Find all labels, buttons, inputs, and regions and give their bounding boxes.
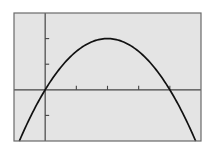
plot-area xyxy=(14,13,201,141)
graph-plot xyxy=(0,0,212,147)
